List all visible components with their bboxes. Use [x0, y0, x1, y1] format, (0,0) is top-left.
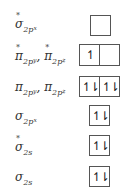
orbital-box-sigma-star-2s: ↿⇂: [89, 135, 110, 156]
orbital-label-pi-2p: π2py, π2pz: [15, 81, 65, 99]
orbital-label-sigma-star-2s: σ2s: [15, 141, 32, 159]
electron-cell: [91, 16, 110, 35]
orbital-label-sigma-2px: σ2px: [15, 110, 37, 128]
orbital-label-sigma-star-2px: σ2px: [15, 18, 37, 36]
orbital-label-pi-star-2p: π2py, π2pz: [15, 50, 65, 68]
electron-cell: ↿⇂: [90, 136, 109, 155]
electron-cell: ↿: [80, 45, 99, 65]
orbital-box-sigma-2s: ↿⇂: [89, 166, 110, 187]
orbital-box-sigma-star-2px: [90, 15, 111, 36]
sigma-symbol: σ: [15, 17, 23, 31]
electron-cell: ↿⇂: [99, 77, 119, 96]
electron-cell: ↿⇂: [90, 106, 109, 125]
orbital-box-pi-2p: ↿⇂ ↿⇂: [79, 76, 120, 97]
orbital-box-pi-star-2p: ↿: [79, 44, 120, 66]
electron-cell: [99, 45, 119, 65]
electron-cell: ↿⇂: [90, 167, 109, 186]
electron-cell: ↿⇂: [80, 77, 99, 96]
orbital-label-sigma-2s: σ2s: [15, 171, 32, 189]
orbital-box-sigma-2px: ↿⇂: [89, 105, 110, 126]
